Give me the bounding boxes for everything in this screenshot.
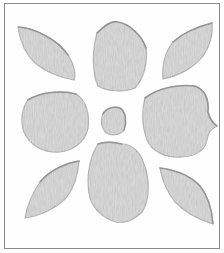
petal-middle-left: [22, 92, 89, 152]
petal-bottom-left: [25, 161, 79, 218]
petal-top-center: [93, 22, 146, 91]
petal-bottom-center: [88, 142, 148, 222]
flower-motif: [0, 0, 224, 253]
